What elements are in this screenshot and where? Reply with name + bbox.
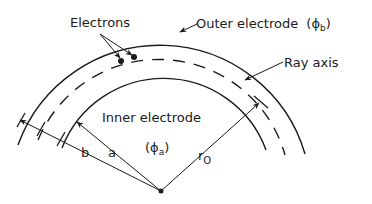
electrons-pointer [100, 34, 120, 58]
ray-axis-label: Ray axis [284, 55, 339, 70]
radius-a-line [77, 122, 161, 191]
electron-dot [118, 58, 124, 64]
outer-electrode-pointer [180, 24, 197, 32]
electrostatic-analyzer-diagram: Electrons Outer electrode (ϕb) Ray axis … [0, 0, 372, 204]
outer-electrode-label: Outer electrode (ϕb) [196, 16, 331, 33]
center-point [159, 189, 164, 194]
inner-electrode-label: Inner electrode [102, 110, 201, 125]
radius-b-line [20, 120, 161, 191]
tick-mark [17, 113, 25, 127]
ray-axis-pointer [245, 62, 283, 80]
inner-potential-label: (ϕa) [145, 140, 169, 157]
radius-b-label: b [81, 145, 89, 160]
electrons-label: Electrons [70, 15, 130, 30]
radius-r0-label: rO [198, 148, 211, 166]
radius-a-label: a [108, 145, 116, 160]
